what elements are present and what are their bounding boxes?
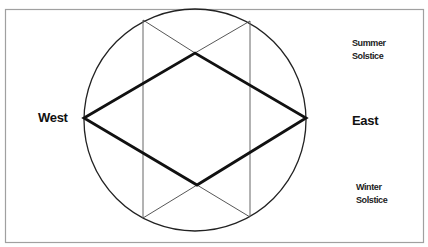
summer-solstice-label: Summer Solstice — [352, 37, 386, 63]
winter-solstice-line2: Solstice — [356, 194, 387, 207]
winter-cross-line-right — [197, 185, 250, 217]
sun-path-diamond — [84, 53, 306, 185]
summer-solstice-line1: Summer — [352, 37, 386, 50]
summer-cross-line-left — [143, 20, 195, 53]
west-label: West — [38, 110, 68, 125]
summer-cross-line-right — [195, 21, 250, 53]
summer-solstice-line2: Solstice — [352, 50, 386, 63]
horizon-circle — [84, 9, 306, 231]
winter-solstice-line1: Winter — [356, 181, 387, 194]
east-label: East — [352, 113, 378, 128]
winter-cross-line-left — [143, 185, 197, 218]
winter-solstice-label: Winter Solstice — [356, 181, 387, 207]
